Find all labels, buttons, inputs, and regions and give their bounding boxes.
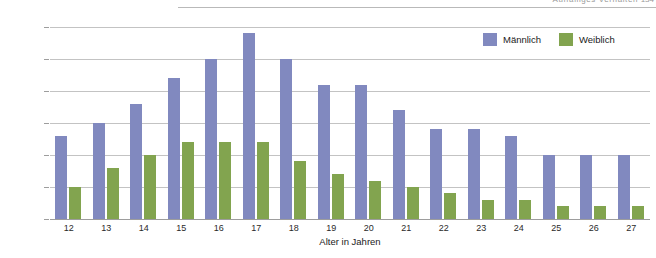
x-tick-label: 16: [200, 223, 238, 233]
bar-weiblich-age-13: [107, 168, 119, 219]
bar-weiblich-age-27: [632, 206, 644, 219]
x-tick-label: 19: [313, 223, 351, 233]
x-tick-label: 14: [125, 223, 163, 233]
x-tick-label: 17: [238, 223, 276, 233]
bar-group: [463, 27, 501, 219]
bar-männlich-age-27: [618, 155, 630, 219]
bar-männlich-age-17: [243, 33, 255, 219]
x-tick-label: 23: [463, 223, 501, 233]
y-tick-mark: [44, 219, 49, 220]
gridline-0%: [50, 219, 650, 220]
bar-weiblich-age-25: [557, 206, 569, 219]
bar-group: [613, 27, 651, 219]
legend-label: Weiblich: [579, 34, 615, 45]
bar-männlich-age-20: [355, 85, 367, 219]
y-tick-mark: [44, 91, 49, 92]
bar-männlich-age-21: [393, 110, 405, 219]
bar-männlich-age-12: [55, 136, 67, 219]
bar-weiblich-age-21: [407, 187, 419, 219]
bar-weiblich-age-23: [482, 200, 494, 219]
bar-männlich-age-13: [93, 123, 105, 219]
y-tick-mark: [44, 155, 49, 156]
bar-weiblich-age-17: [257, 142, 269, 219]
bar-group: [575, 27, 613, 219]
legend-item: Männlich: [483, 33, 541, 46]
bar-männlich-age-16: [205, 59, 217, 219]
bar-group: [200, 27, 238, 219]
x-tick-label: 15: [163, 223, 201, 233]
y-tick-mark: [44, 59, 49, 60]
bar-männlich-age-19: [318, 85, 330, 219]
y-tick-mark: [44, 123, 49, 124]
legend-swatch: [559, 33, 573, 46]
bar-weiblich-age-26: [594, 206, 606, 219]
bar-weiblich-age-15: [182, 142, 194, 219]
x-tick-label: 24: [500, 223, 538, 233]
x-tick-label: 26: [575, 223, 613, 233]
bar-group: [125, 27, 163, 219]
bar-männlich-age-25: [543, 155, 555, 219]
y-tick-mark: [44, 27, 49, 28]
bar-weiblich-age-12: [69, 187, 81, 219]
bar-männlich-age-22: [430, 129, 442, 219]
legend-label: Männlich: [503, 34, 541, 45]
bar-männlich-age-23: [468, 129, 480, 219]
bar-weiblich-age-16: [219, 142, 231, 219]
bar-weiblich-age-19: [332, 174, 344, 219]
bar-group: [238, 27, 276, 219]
bar-group: [50, 27, 88, 219]
bar-männlich-age-24: [505, 136, 517, 219]
x-tick-label: 21: [388, 223, 426, 233]
bar-group: [425, 27, 463, 219]
x-tick-label: 20: [350, 223, 388, 233]
bar-weiblich-age-14: [144, 155, 156, 219]
x-tick-label: 18: [275, 223, 313, 233]
x-tick-label: 13: [88, 223, 126, 233]
bar-group: [538, 27, 576, 219]
bar-weiblich-age-18: [294, 161, 306, 219]
bar-weiblich-age-24: [519, 200, 531, 219]
plot-area: 0%5%10%15%20%25%30% 12131415161718192021…: [50, 27, 650, 219]
bar-group: [350, 27, 388, 219]
x-tick-label: 25: [538, 223, 576, 233]
bar-weiblich-age-22: [444, 193, 456, 219]
bar-group: [500, 27, 538, 219]
x-tick-label: 12: [50, 223, 88, 233]
bar-group: [88, 27, 126, 219]
bar-series-container: [50, 27, 650, 219]
bar-männlich-age-15: [168, 78, 180, 219]
bar-männlich-age-26: [580, 155, 592, 219]
bar-männlich-age-14: [130, 104, 142, 219]
x-tick-label: 27: [613, 223, 651, 233]
bar-group: [313, 27, 351, 219]
legend-item: Weiblich: [559, 33, 615, 46]
x-axis-label: Alter in Jahren: [50, 236, 650, 247]
y-tick-mark: [44, 187, 49, 188]
bar-weiblich-age-20: [369, 181, 381, 219]
bar-chart: Altersabhängige Prävalenzrate 0%5%10%15%…: [0, 0, 656, 258]
bar-group: [275, 27, 313, 219]
chart-legend: MännlichWeiblich: [483, 33, 615, 46]
x-tick-label: 22: [425, 223, 463, 233]
legend-swatch: [483, 33, 497, 46]
bar-group: [163, 27, 201, 219]
bar-männlich-age-18: [280, 59, 292, 219]
bar-group: [388, 27, 426, 219]
